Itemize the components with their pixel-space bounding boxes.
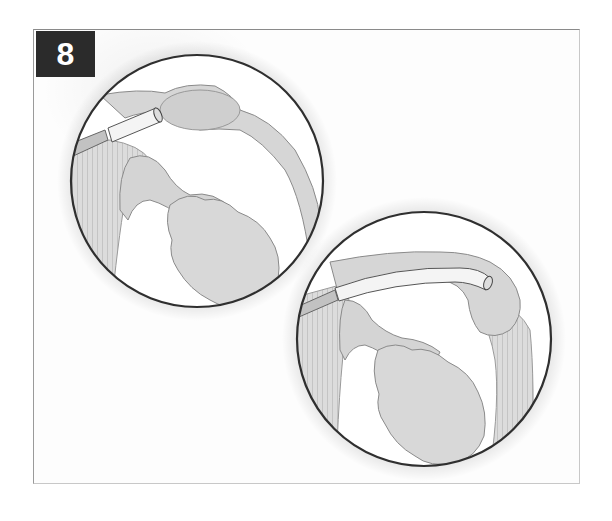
illustration [0,0,612,521]
duct-bulb [160,90,240,130]
